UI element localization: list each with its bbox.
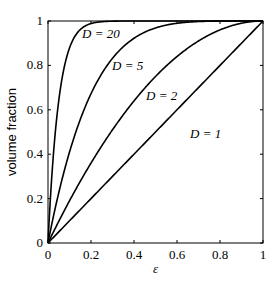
curve-D-1 [48, 21, 263, 243]
x-axis-label: ε [153, 261, 159, 276]
x-tick-label: 0.6 [169, 247, 186, 262]
x-tick-label: 0.4 [126, 247, 143, 262]
x-tick-label: 0.8 [212, 247, 228, 262]
volume-fraction-chart: 00.20.40.60.8100.20.40.60.81εvolume frac… [0, 0, 278, 284]
x-tick-label: 1 [260, 247, 267, 262]
y-tick-label: 0 [37, 235, 44, 250]
y-tick-label: 0.8 [27, 57, 43, 72]
label-D-5: D = 5 [111, 58, 144, 73]
y-tick-label: 1 [37, 13, 44, 28]
y-tick-label: 0.4 [27, 146, 44, 161]
y-axis-label: volume fraction [4, 88, 19, 176]
y-tick-label: 0.2 [27, 191, 43, 206]
x-tick-label: 0 [45, 247, 52, 262]
label-D-2: D = 2 [145, 88, 178, 103]
label-D-20: D = 20 [81, 26, 120, 41]
y-tick-label: 0.6 [27, 102, 44, 117]
x-tick-label: 0.2 [83, 247, 99, 262]
label-D-1: D = 1 [189, 126, 221, 141]
